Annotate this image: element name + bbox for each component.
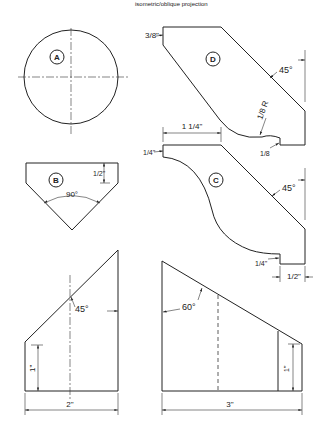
svg-text:1 1/4": 1 1/4" [182,122,203,131]
svg-text:1/8 R: 1/8 R [255,99,270,120]
svg-text:1/4": 1/4" [255,260,268,267]
figure-d: D 3/8" 45° 1/8 R 1/8 [145,27,305,157]
svg-text:D: D [210,55,216,64]
figure-a: A [18,28,128,134]
svg-text:1/2": 1/2" [93,170,106,177]
figure-b: B 1/2" 90° [26,163,118,230]
svg-text:1/2": 1/2" [287,272,301,281]
svg-text:C: C [213,176,219,185]
svg-text:2": 2" [66,400,73,409]
svg-text:45°: 45° [75,304,89,314]
svg-text:60°: 60° [182,302,196,312]
svg-text:A: A [54,53,60,62]
figure-c: C 1 1/4" 1/4" 45° 1/4" 1/2" [143,122,313,282]
svg-text:1": 1" [283,365,290,372]
svg-text:1": 1" [28,365,37,372]
svg-text:isometric/oblique projection: isometric/oblique projection [135,1,208,7]
svg-text:1/8: 1/8 [260,150,270,157]
drawing-sheet: isometric/oblique projection A D 3/8" 45… [0,0,326,433]
svg-text:B: B [53,176,59,185]
svg-text:45°: 45° [282,183,296,193]
svg-text:3/8": 3/8" [145,31,159,40]
header-caption: isometric/oblique projection [135,1,208,7]
svg-text:90°: 90° [66,190,78,199]
svg-text:1/4": 1/4" [143,149,156,156]
svg-text:45°: 45° [279,65,293,75]
svg-text:3": 3" [226,400,233,409]
figure-e: 45° 1" 2" [25,250,118,415]
figure-f: 60° 1" 3" [162,261,302,415]
